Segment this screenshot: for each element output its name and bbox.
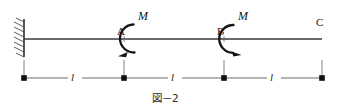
moment-label-b: M	[238, 10, 248, 22]
dimension-marker	[319, 75, 325, 81]
dimension-label-span-3: l	[270, 72, 273, 83]
dimension-marker	[21, 75, 27, 81]
dimension-label-span-1: l	[71, 72, 74, 83]
node-label-c: C	[316, 17, 323, 28]
node-label-a: A	[117, 26, 125, 37]
figure-caption: 図－2	[152, 93, 179, 104]
dimension-marker	[121, 75, 127, 81]
dimension-marker	[221, 75, 227, 81]
figure-container: A M B M C l l l 図－2	[0, 0, 342, 112]
moment-label-a: M	[138, 10, 148, 22]
node-label-b: B	[217, 26, 224, 37]
dimension-label-span-2: l	[171, 72, 174, 83]
